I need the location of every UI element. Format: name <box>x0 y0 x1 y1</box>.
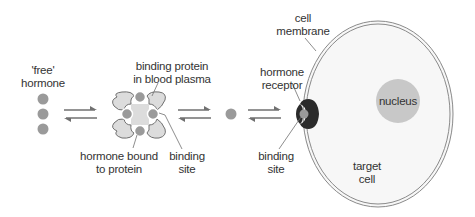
label-binding-protein: binding protein in blood plasma <box>133 60 211 86</box>
label-target-cell: target cell <box>353 160 381 186</box>
protein-subunit <box>147 92 165 110</box>
label-binding-site-protein: binding site <box>169 150 205 176</box>
bound-hormone <box>122 109 133 120</box>
hormone-binding-diagram: 'free' hormone binding protein in blood … <box>0 0 475 217</box>
protein-subunit <box>113 119 134 138</box>
protein-subunit <box>113 92 134 110</box>
free-hormone-single <box>226 109 237 120</box>
equilibrium-arrows-2 <box>178 106 211 122</box>
binding-protein-complex <box>113 92 166 139</box>
label-binding-site-receptor: binding site <box>258 150 294 176</box>
label-cell-membrane: cell membrane <box>276 12 329 38</box>
bound-hormone <box>135 92 146 103</box>
bound-hormone <box>135 126 146 137</box>
hormone-molecule <box>38 109 49 120</box>
bound-hormone <box>148 109 159 120</box>
hormone-receptor <box>296 99 319 129</box>
free-hormone-group <box>38 94 49 135</box>
label-hormone-receptor: hormone receptor <box>260 66 304 92</box>
label-nucleus: nucleus <box>379 95 417 108</box>
hormone-molecule <box>38 94 49 105</box>
label-free-hormone: 'free' hormone <box>21 64 65 90</box>
label-hormone-bound: hormone bound to protein <box>80 150 158 176</box>
hormone-molecule <box>38 124 49 135</box>
protein-subunit <box>147 119 165 138</box>
equilibrium-arrows-3 <box>248 106 281 122</box>
equilibrium-arrows-1 <box>64 106 97 122</box>
protein-core <box>131 104 149 125</box>
diagram-canvas <box>0 0 475 217</box>
